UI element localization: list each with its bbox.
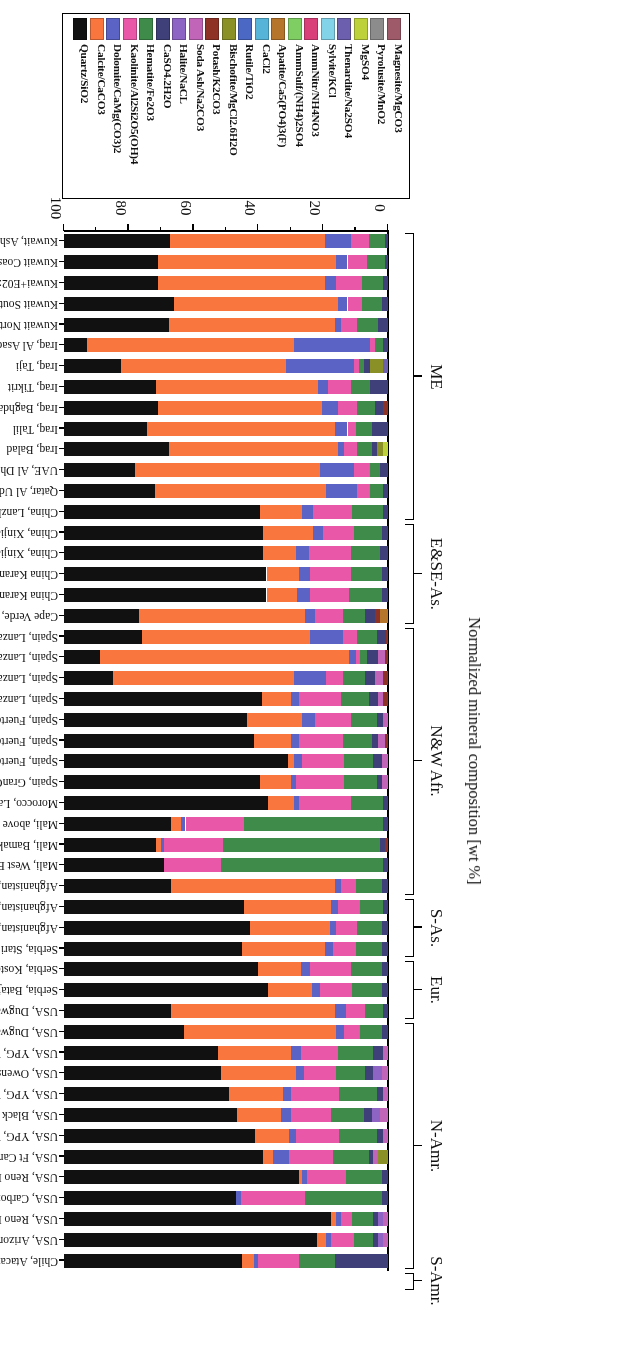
bar-segment	[263, 526, 313, 540]
bar-segment	[330, 921, 336, 935]
bar-segment	[382, 754, 388, 768]
bar-segment	[299, 692, 341, 706]
region-label: N&W Afr.	[426, 726, 446, 797]
bar-segment	[383, 1004, 388, 1018]
bar-segment	[344, 442, 357, 456]
bar-segment	[302, 1170, 307, 1184]
legend-swatch	[156, 18, 170, 40]
bar-segment	[343, 630, 358, 644]
axis-tick	[127, 224, 128, 231]
sample-label: USA, YPG, Yuma AZ, Roadrunner Site	[0, 1130, 58, 1142]
bar-segment	[372, 442, 377, 456]
bar-segment	[333, 942, 356, 956]
sample-label: Kuwait North, Camp Buehring	[0, 319, 58, 331]
bar-segment	[268, 983, 312, 997]
bar-segment	[315, 609, 343, 623]
sample-label: Chile, Atacama, Rock Garden	[0, 1255, 58, 1267]
bar-segment	[64, 463, 135, 477]
bar-segment	[325, 942, 333, 956]
region-label: S-Amr.	[426, 1257, 446, 1307]
sample-tick	[59, 802, 64, 803]
bar-segment	[291, 734, 299, 748]
bar-segment	[171, 817, 181, 831]
sample-tick	[59, 1072, 64, 1073]
bar-segment	[158, 255, 336, 269]
bar-segment	[383, 442, 388, 456]
bar-segment	[351, 380, 370, 394]
axis-tick-label: 100	[47, 197, 64, 220]
axis-tick-label: 60	[177, 201, 194, 216]
bar-segment	[383, 671, 388, 685]
region-bracket-stem	[414, 1145, 422, 1147]
legend-swatch	[123, 18, 137, 40]
sample-tick	[59, 719, 64, 720]
bar-segment	[370, 380, 388, 394]
bar-segment	[326, 671, 342, 685]
bar-segment	[64, 1233, 317, 1247]
sample-label: USA, Owens Lake CA	[0, 1068, 58, 1080]
bar-segment	[268, 796, 294, 810]
legend-label: Pyrolusite/MnO2	[377, 44, 389, 124]
bar-segment	[336, 276, 362, 290]
bar-segment	[369, 234, 385, 248]
bar-segment	[236, 1191, 241, 1205]
bar-segment	[301, 962, 311, 976]
sample-label: Kuwait, Ash Shu Ayabah	[0, 236, 58, 248]
legend-item: Bischofite/MgCl2.6H2O	[222, 18, 236, 40]
sample-label: Afghanistan, Bagram	[0, 881, 58, 893]
legend-item: Magnesite/MgCO3	[387, 18, 401, 40]
region-bracket-stem	[414, 573, 422, 575]
region-bracket	[405, 628, 414, 894]
sample-tick	[59, 1259, 64, 1260]
sample-label: China Karamay 2	[0, 589, 58, 601]
bar-segment	[357, 921, 381, 935]
sample-label: USA, Reno NV, Peavine	[0, 1213, 58, 1225]
bar-segment	[383, 276, 388, 290]
sample-label: China Karamay 1	[0, 569, 58, 581]
sample-tick	[59, 968, 64, 969]
bar-segment	[354, 463, 370, 477]
bar-segment	[64, 879, 171, 893]
sample-label: Serbia, Batajnica	[0, 985, 58, 997]
sample-tick	[59, 1155, 64, 1156]
bar-segment	[377, 1087, 383, 1101]
bar-segment	[64, 567, 267, 581]
legend-item: Apatite/Ca5(PO4)3(F)	[272, 18, 286, 40]
region-bracket-stem	[414, 375, 422, 377]
bar-segment	[164, 838, 222, 852]
legend-swatch	[90, 18, 104, 40]
bar-segment	[87, 338, 294, 352]
bar-segment	[344, 754, 373, 768]
bar-segment	[385, 838, 388, 852]
bar-segment	[309, 546, 351, 560]
bar-segment	[360, 1025, 381, 1039]
bar-segment	[383, 817, 388, 831]
bar-segment	[64, 1254, 242, 1268]
bar-segment	[64, 1212, 331, 1226]
sample-label: USA, Black Rock playa, NV	[0, 1109, 58, 1121]
bar-segment	[378, 1212, 383, 1226]
bar-segment	[380, 463, 388, 477]
bar-segment	[386, 630, 388, 644]
bar-segment	[291, 692, 299, 706]
bar-segment	[365, 1066, 373, 1080]
bar-segment	[64, 1150, 263, 1164]
bar-segment	[383, 1233, 388, 1247]
bar-segment	[296, 775, 345, 789]
bar-segment	[64, 713, 247, 727]
bar-segment	[331, 1212, 336, 1226]
bar-segment	[64, 1087, 229, 1101]
region-bracket	[405, 899, 414, 957]
bar-segment	[367, 650, 378, 664]
bar-segment	[372, 422, 388, 436]
bar-segment	[382, 879, 388, 893]
legend-item: Rutile/TiO2	[239, 18, 253, 40]
bar-segment	[378, 318, 388, 332]
bar-segment	[325, 276, 336, 290]
bar-segment	[260, 505, 302, 519]
sample-label: Kuwait South, Camp Arifjan	[0, 298, 58, 310]
bar-segment	[362, 297, 381, 311]
bar-segment	[186, 817, 244, 831]
bar-segment	[360, 900, 383, 914]
bar-segment	[375, 671, 383, 685]
